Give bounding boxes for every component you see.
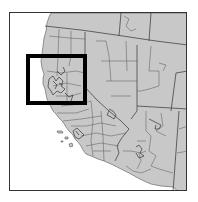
map-canvas: [10, 13, 187, 191]
channel-island: [65, 137, 68, 139]
channel-island: [69, 143, 73, 147]
map-frame: [9, 12, 187, 191]
channel-island: [57, 131, 63, 133]
channel-island: [61, 141, 63, 142]
